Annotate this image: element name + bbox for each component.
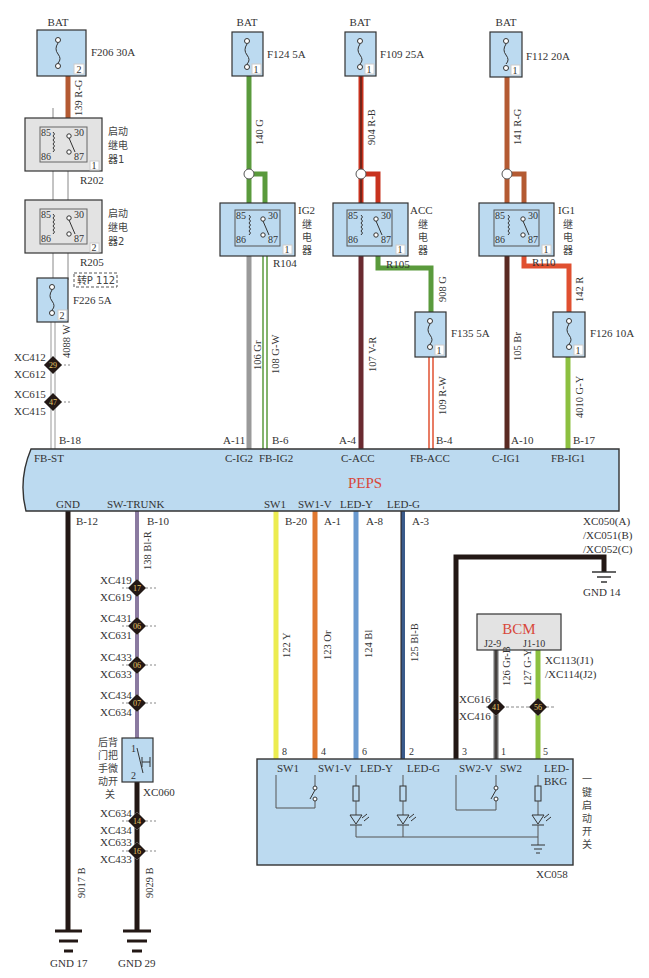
splice-xc433: 06 XC433 XC633 — [100, 651, 156, 680]
splice-number: 56 — [534, 703, 542, 712]
pin-signal: GND — [56, 498, 80, 510]
pin-signal: FB-ACC — [410, 452, 450, 464]
connector-label: /XC051(B) — [583, 529, 633, 542]
splice-number: 06 — [133, 661, 141, 670]
fuse-pin: 1 — [437, 345, 442, 356]
pin-number: B-4 — [436, 434, 453, 446]
relay-pin: 85 — [495, 210, 505, 221]
relay-id: R202 — [80, 174, 104, 186]
relay-name: 继电 — [108, 139, 128, 151]
pin-signal: SW1 — [277, 762, 299, 774]
ground-label: GND 14 — [583, 586, 621, 598]
switch-pin: 2 — [131, 770, 136, 781]
pin-number: B-18 — [59, 434, 82, 446]
pin-signal: SW1 — [264, 498, 286, 510]
relay-tag: 1 — [92, 160, 97, 171]
relay-pin: 87 — [74, 233, 84, 244]
wire-label: 106 Gr — [252, 340, 263, 370]
pin-number: B-6 — [272, 434, 289, 446]
connector-label: XC634 — [100, 807, 132, 819]
pin-number: B-12 — [76, 515, 98, 527]
switch-name: 后背 — [98, 736, 118, 748]
pin-number: A-10 — [511, 434, 534, 446]
pin-number: 4 — [321, 746, 326, 757]
pin-number: B-20 — [285, 515, 308, 527]
pin-signal: LED- — [544, 762, 569, 774]
fuse-pin: 1 — [513, 65, 518, 76]
fuse-f124: BAT 1 F124 5A — [232, 16, 306, 76]
switch-name: 动开 — [98, 776, 118, 787]
relay-name: 电 — [302, 231, 312, 243]
switch-name: 手微 — [98, 762, 118, 774]
page-reference[interactable]: 转P 112 — [74, 273, 117, 287]
pin-number: A-11 — [223, 434, 245, 446]
pin-number: A-4 — [339, 434, 357, 446]
switch-name-char: 键 — [582, 786, 592, 798]
wire-label: 124 Bl — [363, 630, 374, 658]
bcm-title: BCM — [502, 621, 535, 637]
pin-number: A-8 — [366, 515, 384, 527]
pin-signal: FB-IG2 — [259, 452, 293, 464]
relay-name: 器 — [563, 245, 573, 256]
connector-label: XC050(A) — [583, 515, 630, 528]
pin-signal: LED-Y — [360, 762, 393, 774]
relay-pin: 30 — [268, 210, 278, 221]
fuse-f109: BAT 1 F109 25A — [345, 16, 424, 76]
pin-signal: BKG — [544, 775, 567, 787]
splice-xc633: 16 XC633 XC433 — [100, 836, 156, 865]
wire-label: 108 G-W — [270, 335, 281, 374]
splice-number: 29 — [49, 361, 57, 370]
wire-label: 109 R-W — [437, 376, 448, 415]
pin-number: 1 — [501, 746, 506, 757]
relay-name: 继 — [302, 218, 312, 230]
junction-dot — [244, 169, 254, 179]
pin-number: B-10 — [147, 515, 170, 527]
ground-gnd17: GND 17 — [50, 931, 88, 969]
peps-title: PEPS — [348, 475, 382, 491]
wire-label: 904 R-B — [366, 109, 377, 145]
relay-tag: 1 — [544, 244, 549, 255]
connector-label: XC419 — [100, 574, 132, 586]
fuse-pin: 2 — [60, 310, 65, 321]
wire-label: 9017 B — [76, 867, 87, 898]
switch-name-char: 关 — [582, 838, 592, 850]
bcm-module[interactable]: BCM J2-9 J1-10 — [477, 614, 561, 650]
bat-label: BAT — [237, 16, 258, 28]
peps-module[interactable]: PEPS B-18 FB-ST A-11 C-IG2 B-6 FB-IG2 A-… — [23, 434, 619, 527]
relay-pin: 86 — [348, 234, 358, 245]
relay-name: 器1 — [108, 154, 124, 165]
start-switch-module[interactable]: 8 4 6 2 3 1 5 SW1 SW1-V LED-Y LED-G SW2-… — [257, 746, 573, 865]
relay-name: 继 — [563, 218, 573, 230]
ground-label: GND 17 — [50, 957, 88, 969]
relay-pin: 30 — [381, 210, 391, 221]
fuse-f206: BAT 2 F206 30A — [37, 16, 135, 76]
fuse-label: F112 20A — [526, 50, 570, 62]
relay-r105: 85 30 86 87 1 ACC 继 电 器 R105 — [333, 203, 433, 270]
splice-number: 17 — [133, 584, 141, 593]
wire-label: 138 Bl-R — [142, 531, 153, 570]
wire-label: 9029 B — [144, 867, 155, 898]
pin-number: 2 — [409, 746, 414, 757]
relay-name: 器 — [302, 245, 312, 256]
relay-id: R110 — [532, 256, 556, 268]
pin-signal: LED-Y — [340, 498, 373, 510]
relay-tag: 1 — [398, 244, 403, 255]
page-ref-label: 转P 112 — [77, 274, 115, 286]
pin-signal: SW1-V — [318, 762, 352, 774]
splice-number: 41 — [492, 703, 500, 712]
splice-xc634: 14 XC634 XC434 — [100, 807, 156, 836]
fuse-f126: 1 F126 10A — [553, 312, 634, 357]
connector-label: XC431 — [100, 612, 132, 624]
connector-label: XC633 — [100, 836, 132, 848]
pin-number: 3 — [462, 746, 467, 757]
relay-name: IG1 — [558, 204, 575, 216]
splice-xc615: 47 XC615 XC415 — [14, 388, 70, 417]
wire-label: 126 Gr-B — [501, 646, 512, 686]
relay-r110: 85 30 86 87 1 IG1 继 电 器 R110 — [479, 203, 575, 268]
connector-label: XC634 — [100, 706, 132, 718]
splice-number: 16 — [133, 847, 141, 856]
switch-name-char: 开 — [582, 826, 592, 837]
wire-label: 142 R — [574, 277, 585, 302]
switch-name: 门把 — [98, 749, 118, 761]
fuse-pin: 1 — [367, 64, 372, 75]
